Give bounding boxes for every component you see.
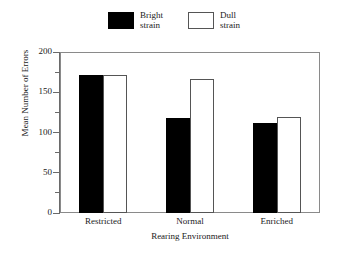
bar-normal-dull xyxy=(190,79,214,213)
y-axis-title: Mean Number of Errors xyxy=(20,33,30,153)
legend-swatch-dull-icon xyxy=(188,12,214,29)
y-axis-minor-tick xyxy=(55,152,59,153)
bar-chart-figure: Bright strain Dull strain 050100150200 M… xyxy=(0,0,339,257)
legend-item-dull-strain: Dull strain xyxy=(188,10,240,30)
x-axis-label-restricted: Restricted xyxy=(58,216,148,226)
legend-label-bright-line1: Bright xyxy=(140,10,163,20)
y-axis-tick-label: 50 xyxy=(18,168,52,177)
y-axis-major-tick xyxy=(53,52,59,53)
x-axis-label-enriched: Enriched xyxy=(232,216,322,226)
legend-label-dull-line2: strain xyxy=(220,20,240,30)
legend-swatch-bright-icon xyxy=(108,12,134,29)
bar-restricted-dull xyxy=(103,75,127,213)
chart-legend: Bright strain Dull strain xyxy=(0,6,339,42)
bars-layer xyxy=(60,52,320,213)
legend-label-dull-line1: Dull xyxy=(220,10,236,20)
y-axis-major-tick xyxy=(53,213,59,214)
y-axis-minor-tick xyxy=(55,192,59,193)
bar-enriched-bright xyxy=(253,123,277,213)
y-axis-major-tick xyxy=(53,92,59,93)
bar-restricted-bright xyxy=(79,75,103,213)
y-axis-minor-tick xyxy=(55,72,59,73)
legend-label-bright-line2: strain xyxy=(140,20,163,30)
legend-label-bright: Bright strain xyxy=(140,10,163,30)
legend-item-bright-strain: Bright strain xyxy=(108,10,163,30)
bar-normal-bright xyxy=(166,118,190,213)
y-axis-major-tick xyxy=(53,132,59,133)
y-axis-major-tick xyxy=(53,172,59,173)
legend-label-dull: Dull strain xyxy=(220,10,240,30)
x-axis-title: Rearing Environment xyxy=(60,231,320,241)
x-axis-label-normal: Normal xyxy=(145,216,235,226)
y-axis-tick-label: 0 xyxy=(18,208,52,217)
bar-enriched-dull xyxy=(277,117,301,213)
y-axis-minor-tick xyxy=(55,112,59,113)
